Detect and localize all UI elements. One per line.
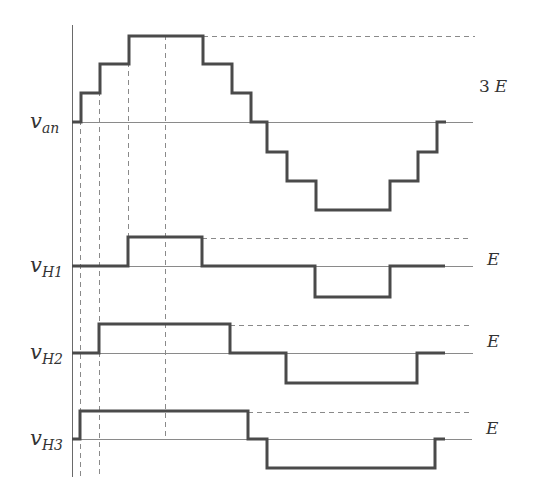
v-h2-label: vH2 [30,340,63,367]
v-h2-amplitude-label: E [486,331,500,351]
v-h1-label: vH1 [30,253,63,280]
multilevel-waveform-diagram: van 3E vH1 E vH2 E vH3 E [0,0,537,498]
trace-v-h3: vH3 E [30,411,499,468]
v-h3-amplitude-label: E [485,418,499,438]
v-h3-label: vH3 [30,426,63,453]
trace-v-an: van 3E [30,36,508,210]
trace-v-h2: vH2 E [30,324,500,383]
v-an-amplitude-label: 3E [479,76,508,96]
trace-v-h1: vH1 E [30,237,500,297]
v-h1-amplitude-label: E [486,249,500,269]
v-an-label: van [30,109,59,136]
v-h1-waveform [72,237,445,297]
